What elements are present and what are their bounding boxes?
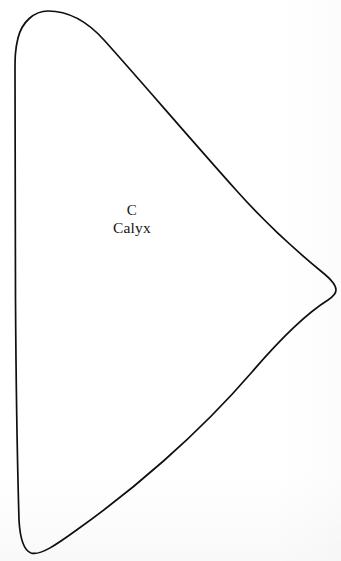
calyx-outline-drawing	[0, 0, 341, 561]
panel-letter: C	[96, 202, 168, 219]
structure-label: Calyx	[96, 219, 168, 236]
figure-label-block: C Calyx	[96, 202, 168, 236]
calyx-figure: C Calyx	[0, 0, 341, 561]
calyx-outline-path	[15, 11, 336, 553]
